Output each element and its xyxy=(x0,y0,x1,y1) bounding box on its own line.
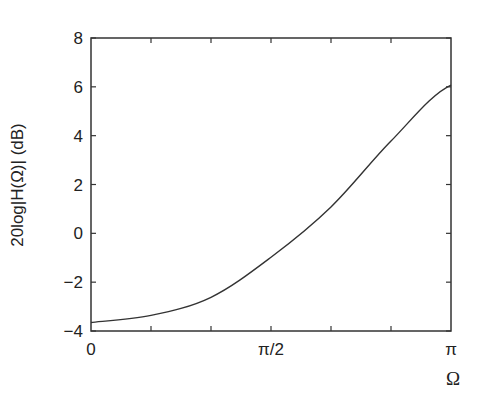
y-axis-label: 20log|H(Ω)| (dB) xyxy=(8,85,32,285)
magnitude-response-curve xyxy=(91,85,451,322)
svg-text:π/2: π/2 xyxy=(258,340,284,359)
svg-text:−4: −4 xyxy=(64,322,83,341)
x-axis-label: Ω xyxy=(446,368,460,389)
y-tick-labels: −4−202468 xyxy=(64,29,83,341)
chart: −4−202468 0π/2π Ω xyxy=(0,0,485,406)
svg-text:−2: −2 xyxy=(64,273,83,292)
svg-text:0: 0 xyxy=(74,224,83,243)
svg-text:0: 0 xyxy=(86,340,95,359)
svg-text:8: 8 xyxy=(74,29,83,48)
x-tick-labels: 0π/2π xyxy=(86,340,457,359)
svg-text:2: 2 xyxy=(74,176,83,195)
svg-text:π: π xyxy=(445,340,457,359)
plot-frame xyxy=(91,38,451,331)
svg-text:6: 6 xyxy=(74,78,83,97)
svg-text:4: 4 xyxy=(74,127,83,146)
axis-ticks xyxy=(91,38,451,331)
